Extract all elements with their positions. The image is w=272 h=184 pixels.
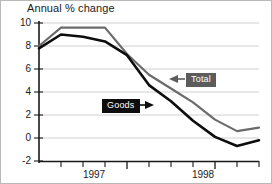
series-callout-total: Total	[186, 73, 216, 87]
y-tick-label-10: 10	[9, 17, 31, 28]
gridlines	[39, 23, 259, 138]
callout-arrow-goods	[138, 101, 154, 109]
callout-arrow-total	[169, 75, 185, 83]
y-tick-label-2: 2	[9, 109, 31, 120]
x-tick-label-1998: 1998	[183, 169, 223, 180]
chart-figure: Annual % change	[0, 0, 272, 184]
x-axis	[39, 161, 259, 169]
y-axis	[34, 21, 43, 163]
x-tick-label-1997: 1997	[74, 169, 114, 180]
y-tick-label-6: 6	[9, 63, 31, 74]
series-line-total	[39, 28, 259, 132]
series-line-goods	[39, 35, 259, 147]
y-tick-label-0: 0	[9, 132, 31, 143]
y-tick-label-4: 4	[9, 86, 31, 97]
series-callout-goods: Goods	[102, 99, 140, 113]
plot-area	[1, 1, 272, 184]
y-tick-label-8: 8	[9, 40, 31, 51]
y-tick-label-neg2: -2	[9, 155, 31, 166]
